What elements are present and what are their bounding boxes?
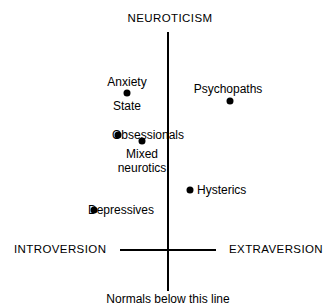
point-dot-psychopaths (227, 98, 234, 105)
point-label-mixed-line-2: neurotics (118, 161, 167, 175)
point-label-mixed-line-1: Mixed (118, 147, 167, 161)
point-label-depressives: Depressives (88, 203, 154, 217)
point-dot-mixed-neurotics (139, 138, 146, 145)
point-label-anxiety: Anxiety (107, 75, 146, 89)
point-dot-anxiety-state (124, 90, 131, 97)
point-label-state: State (113, 99, 141, 113)
point-dot-obsessionals (115, 132, 122, 139)
axis-label-extraversion: EXTRAVERSION (229, 243, 323, 255)
introversion-extraversion-axis-line (120, 249, 216, 251)
axis-label-introversion: INTROVERSION (14, 243, 106, 255)
point-dot-depressives (91, 207, 98, 214)
point-dot-hysterics (187, 187, 194, 194)
point-label-psychopaths: Psychopaths (194, 82, 263, 96)
point-label-mixed-neurotics: Mixed neurotics (118, 147, 167, 175)
figure-caption: Normals below this line (106, 292, 229, 306)
neuroticism-axis-line (167, 32, 169, 291)
point-label-hysterics: Hysterics (197, 183, 246, 197)
axis-label-neuroticism: NEUROTICISM (128, 12, 213, 24)
eysenck-personality-diagram: NEUROTICISM INTROVERSION EXTRAVERSION An… (0, 0, 336, 308)
point-label-obsessionals: Obsessionals (112, 128, 184, 142)
